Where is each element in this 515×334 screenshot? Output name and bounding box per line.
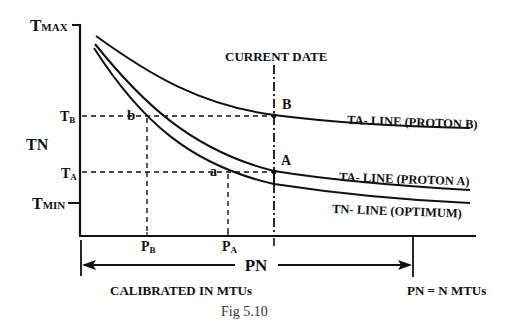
tmin-label: TMIN bbox=[32, 195, 65, 212]
pa-label: PA bbox=[222, 239, 238, 255]
point-a-label: a bbox=[210, 164, 217, 179]
y-axis-label: TN bbox=[26, 136, 49, 153]
ta-label: TA bbox=[61, 166, 77, 182]
optimum-label: TN- LINE (OPTIMUM) bbox=[332, 202, 462, 221]
point-b-label: b bbox=[127, 107, 135, 123]
diagram-canvas: TMAX TB TN TA TMIN PB PA PN CALIBRATED I… bbox=[0, 0, 515, 334]
point-B-dot bbox=[272, 114, 277, 119]
proton-a-label: TA- LINE (PROTON A) bbox=[339, 170, 470, 189]
pb-label: PB bbox=[141, 239, 156, 255]
proton-b-label: TA- LINE (PROTON B) bbox=[347, 113, 478, 132]
tb-label: TB bbox=[60, 109, 75, 125]
point-B-label: B bbox=[282, 97, 291, 112]
equation-label: PN = N MTUs bbox=[407, 283, 486, 298]
figure-caption: Fig 5.10 bbox=[221, 304, 268, 319]
current-date-label: CURRENT DATE bbox=[225, 49, 327, 64]
point-A-dot bbox=[272, 170, 277, 175]
point-A-label: A bbox=[281, 153, 292, 168]
tmax-label: TMAX bbox=[30, 16, 68, 35]
range-label: PN bbox=[245, 256, 268, 275]
calibration-label: CALIBRATED IN MTUs bbox=[110, 283, 252, 298]
